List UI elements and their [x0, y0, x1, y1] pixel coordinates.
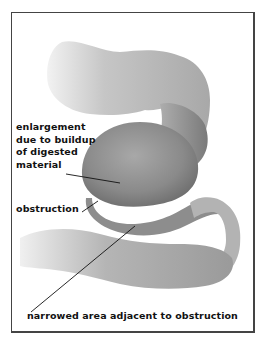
- enlarged-bulb: [82, 122, 198, 207]
- label-line: of digested: [16, 146, 96, 159]
- label-line: material: [16, 159, 96, 172]
- label-line: enlargement: [16, 121, 96, 134]
- label-enlargement: enlargement due to buildup of digested m…: [16, 121, 96, 171]
- lower-intestine: [20, 229, 233, 289]
- label-line: due to buildup: [16, 134, 96, 147]
- label-narrowed-area: narrowed area adjacent to obstruction: [27, 310, 238, 323]
- label-obstruction: obstruction: [16, 203, 79, 216]
